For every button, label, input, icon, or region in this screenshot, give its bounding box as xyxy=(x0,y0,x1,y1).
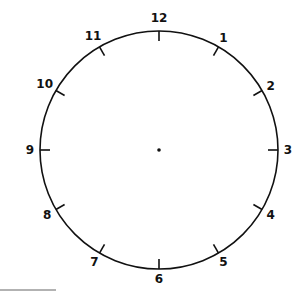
tick-mark-5 xyxy=(214,244,219,253)
tick-mark-2 xyxy=(253,91,262,96)
hour-label-1: 1 xyxy=(219,31,227,45)
hour-label-4: 4 xyxy=(267,208,275,222)
hour-label-5: 5 xyxy=(219,255,227,269)
hour-label-3: 3 xyxy=(284,143,292,157)
hour-label-7: 7 xyxy=(90,255,98,269)
hour-label-11: 11 xyxy=(85,29,102,43)
tick-mark-11 xyxy=(100,47,105,56)
hour-label-12: 12 xyxy=(151,11,168,25)
hour-label-2: 2 xyxy=(267,79,275,93)
center-dot xyxy=(157,148,161,152)
tick-mark-8 xyxy=(56,205,65,210)
tick-mark-1 xyxy=(214,47,219,56)
hour-label-9: 9 xyxy=(26,143,34,157)
hour-label-6: 6 xyxy=(155,272,163,286)
tick-mark-7 xyxy=(100,244,105,253)
clock-face: 121234567891011 xyxy=(0,0,307,297)
hour-label-10: 10 xyxy=(36,77,53,91)
tick-mark-4 xyxy=(253,205,262,210)
hour-label-8: 8 xyxy=(43,208,51,222)
tick-mark-10 xyxy=(56,91,65,96)
